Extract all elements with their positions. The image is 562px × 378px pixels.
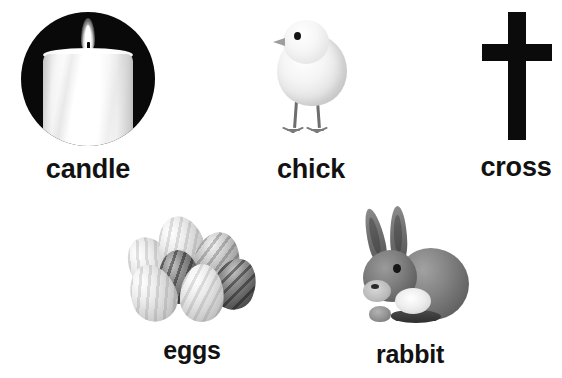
chick-icon <box>265 12 357 146</box>
rabbit-nose <box>371 284 379 289</box>
chick-toe <box>315 127 328 134</box>
chick-beak <box>273 38 285 46</box>
chick-eye <box>294 32 301 40</box>
card-chick[interactable]: chick <box>258 12 364 183</box>
vocabulary-card-board: candle <box>0 0 562 378</box>
card-rabbit[interactable]: rabbit <box>348 206 472 367</box>
candle-circle-backdrop <box>21 12 155 146</box>
cross-icon <box>476 12 556 140</box>
card-eggs[interactable]: eggs <box>124 214 260 363</box>
rabbit-chest-patch <box>395 288 431 314</box>
rabbit-figure <box>351 206 469 330</box>
card-label-candle: candle <box>46 156 130 183</box>
rabbit-muzzle <box>363 280 391 302</box>
card-label-rabbit: rabbit <box>376 342 444 367</box>
eggs-figure <box>128 214 256 324</box>
chick-foot-left <box>282 125 308 135</box>
card-label-cross: cross <box>480 154 551 181</box>
candle-icon <box>21 12 155 146</box>
chick-toe <box>291 127 304 134</box>
cross-horizontal-beam <box>482 44 552 61</box>
eggs-icon <box>128 214 256 324</box>
card-cross[interactable]: cross <box>470 12 562 181</box>
rabbit-icon <box>351 206 469 330</box>
candle-body <box>43 54 133 146</box>
cross-figure <box>476 12 556 140</box>
chick-foot-right <box>306 125 332 135</box>
rabbit-ear-inner <box>393 215 402 253</box>
rabbit-ear-inner <box>367 217 383 256</box>
card-candle[interactable]: candle <box>14 12 162 183</box>
card-label-eggs: eggs <box>163 338 221 363</box>
card-label-chick: chick <box>277 156 345 183</box>
cross-vertical-beam <box>508 12 526 140</box>
chick-figure <box>265 12 357 146</box>
chick-head <box>283 20 329 64</box>
rabbit-front-paw <box>369 306 391 322</box>
rabbit-eye <box>393 264 401 273</box>
